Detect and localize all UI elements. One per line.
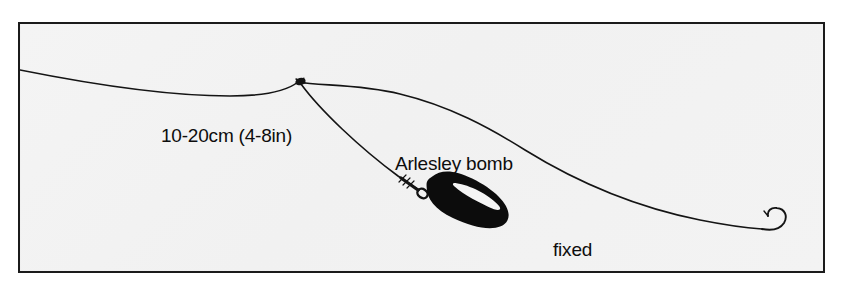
- fishing-rig-illustration: [20, 24, 825, 273]
- link-swivel-icon: [399, 175, 429, 200]
- label-rig-name-line1: fixed: [553, 238, 647, 261]
- hook-icon: [762, 208, 786, 230]
- mainline-path: [20, 70, 762, 229]
- label-dropper-length: 10-20cm (4-8in): [161, 124, 292, 147]
- label-arlesley-bomb: Arlesley bomb: [395, 152, 513, 175]
- label-rig-name: fixed paternoster: [553, 192, 647, 273]
- illustration-frame: 10-20cm (4-8in) Arlesley bomb fixed pate…: [18, 22, 825, 273]
- diagram-root: 10-20cm (4-8in) Arlesley bomb fixed pate…: [0, 0, 845, 286]
- paternoster-knot-icon: [295, 77, 307, 87]
